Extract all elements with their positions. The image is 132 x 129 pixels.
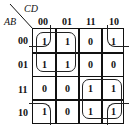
row-variable-label: AB <box>4 17 16 27</box>
col-header-01: 01 <box>62 17 72 27</box>
corner-loop-top-right <box>107 25 129 47</box>
corner-loop-bottom-right <box>107 103 129 125</box>
cell-11-01: 0 <box>56 76 79 100</box>
row-header-10: 10 <box>18 108 28 118</box>
col-variable-label: CD <box>24 4 38 14</box>
row-header-00: 00 <box>18 36 28 46</box>
cell-11-00: 0 <box>33 76 56 100</box>
corner-loop-bottom-left <box>29 103 51 125</box>
cell-01-10: 0 <box>102 52 125 76</box>
cell-00-11: 0 <box>79 29 102 53</box>
col-header-11: 11 <box>86 17 95 27</box>
row-header-11: 11 <box>18 85 27 95</box>
row-header-01: 01 <box>18 60 28 70</box>
kmap-grid: 1 1 0 1 1 1 0 0 0 0 1 1 1 0 1 1 <box>32 28 124 124</box>
cell-01-11: 0 <box>79 52 102 76</box>
cell-10-01: 0 <box>56 99 79 123</box>
corner-loop-top-left <box>29 25 51 47</box>
